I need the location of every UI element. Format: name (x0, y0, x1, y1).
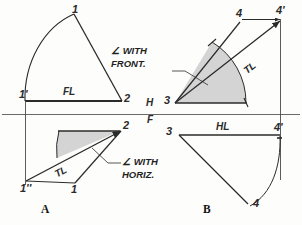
point-label-2-top-left: 2 (124, 93, 130, 105)
line-label-hl: HL (216, 122, 229, 133)
annotation-angle-with-horiz-line2: HORIZ. (122, 170, 154, 180)
point-label-4prime-bottom-right: 4' (274, 122, 283, 134)
line-label-tl-bottom-left: TL (44, 156, 67, 188)
segment-3-4-bottom (179, 135, 248, 204)
bottom-left-construction (26, 131, 121, 183)
reference-label-h: H (146, 98, 153, 109)
annotation-angle-with-front-line2: FRONT. (111, 59, 146, 69)
point-label-3-bottom-right: 3 (166, 126, 172, 138)
top-left-construction (25, 14, 122, 185)
top-right-construction (172, 19, 281, 180)
reference-label-f: F (147, 115, 153, 126)
tl-text-bottom-left: TL (53, 165, 69, 180)
point-label-1-bottom-left: 1 (71, 184, 77, 196)
point-label-4-bottom-right: 4 (253, 198, 259, 210)
technical-drawing-svg (0, 0, 302, 225)
point-label-4-top-right: 4 (236, 8, 242, 20)
point-label-2-bottom-left: 2 (123, 120, 129, 132)
line-label-fl: FL (63, 87, 75, 98)
point-label-1prime: 1' (19, 89, 28, 101)
line-label-tl-top-right: TL (233, 52, 256, 84)
annotation-angle-with-front-line1: ∠ WITH (111, 46, 147, 56)
figure-label-b: B (203, 203, 211, 215)
angle-with-horiz-shading (56, 131, 120, 158)
point-label-1-top-left: 1 (72, 4, 78, 16)
tl-text-top-right: TL (242, 60, 258, 76)
point-label-3-top-right: 3 (164, 95, 170, 107)
annotation-angle-with-horiz-line1: ∠ WITH (122, 157, 158, 167)
bottom-right-construction (179, 135, 282, 206)
rotation-arc-bottom-right (250, 136, 280, 206)
point-label-4prime-top-right: 4' (276, 5, 285, 17)
figure-label-a: A (41, 203, 49, 215)
point-label-1dprime: 1'' (20, 183, 31, 195)
drawing-canvas: H F 1 1' 2 FL 4 4' 3 TL ∠ WITH FRONT. 2 … (0, 0, 302, 225)
